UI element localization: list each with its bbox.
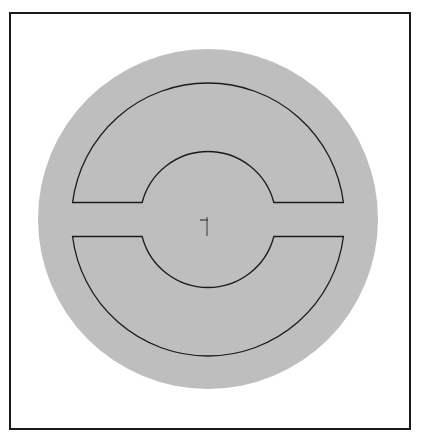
diagram-canvas <box>0 0 422 439</box>
gray-disk <box>38 49 378 389</box>
